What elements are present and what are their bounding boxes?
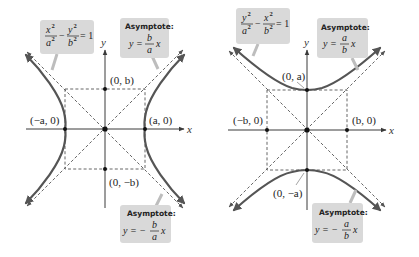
svg-text:b: b [264, 25, 269, 36]
svg-text:2: 2 [270, 10, 273, 17]
svg-text:b: b [147, 32, 152, 43]
label-top-point: (0, b) [110, 74, 134, 87]
point-top [103, 87, 107, 91]
center-point-right [304, 127, 309, 132]
hyperbola-figure: x y (−a, 0) (a, 0) (0, b) (0, −b) x 2 a … [0, 0, 419, 257]
center-point [102, 126, 107, 131]
svg-text:= 1: = 1 [80, 30, 93, 41]
svg-text:b: b [152, 219, 157, 230]
svg-text:Asymptote:: Asymptote: [321, 23, 370, 32]
svg-text:a: a [152, 231, 157, 242]
svg-text:a: a [147, 44, 152, 55]
x-axis-label-right: x [388, 124, 394, 136]
svg-text:b: b [342, 44, 347, 55]
svg-text:2: 2 [248, 23, 251, 30]
svg-text:y =: y = [322, 38, 337, 49]
svg-text:a: a [344, 218, 349, 229]
label-bottom-vertex: (0, −a) [273, 187, 303, 200]
svg-text:2: 2 [52, 22, 55, 29]
svg-text:y: y [67, 24, 73, 35]
vertex-bottom [305, 168, 309, 172]
right-panel: x y (0, a) (0, −a) (−b, 0) (b, 0) y 2 a … [228, 8, 394, 243]
svg-text:x: x [350, 38, 356, 49]
svg-text:x: x [352, 224, 358, 235]
point-bottom [103, 167, 107, 171]
label-top-vertex: (0, a) [282, 70, 306, 83]
svg-text:x: x [45, 24, 51, 35]
svg-text:y =: y = [128, 38, 143, 49]
x-axis-label: x [186, 123, 192, 135]
svg-text:y: y [241, 12, 247, 23]
svg-text:2: 2 [248, 10, 251, 17]
svg-text:−: − [255, 18, 261, 29]
svg-text:x: x [160, 225, 166, 236]
svg-text:b: b [68, 37, 73, 48]
svg-text:Asymptote:: Asymptote: [319, 208, 368, 217]
svg-text:x: x [263, 12, 269, 23]
y-axis-label: y [100, 36, 106, 48]
vertex-top [305, 88, 309, 92]
svg-text:a: a [342, 32, 347, 43]
svg-text:= 1: = 1 [276, 18, 289, 29]
vertex-right [143, 127, 147, 131]
svg-text:a: a [46, 37, 51, 48]
svg-text:2: 2 [74, 35, 77, 42]
asymptote-callout-negative-left: Asymptote: y = − b a x [120, 194, 176, 243]
equation-callout-right: y 2 a 2 − x 2 b 2 = 1 [236, 8, 290, 56]
svg-text:x: x [155, 38, 161, 49]
svg-text:a: a [242, 25, 247, 36]
left-panel: x y (−a, 0) (a, 0) (0, b) (0, −b) x 2 a … [26, 18, 192, 243]
svg-text:Asymptote:: Asymptote: [125, 22, 174, 31]
point-left [265, 128, 269, 132]
vertex-left [63, 127, 67, 131]
label-bottom-point: (0, −b) [109, 176, 139, 189]
svg-text:b: b [344, 230, 349, 241]
svg-text:y = −: y = − [314, 224, 338, 235]
y-axis-label-right: y [303, 36, 309, 48]
svg-text:2: 2 [74, 22, 77, 29]
asymptote-callout-positive-left: Asymptote: y = b a x [120, 18, 174, 69]
label-left-vertex: (−a, 0) [30, 114, 60, 127]
equation-callout-left: x 2 a 2 − y 2 b 2 = 1 [40, 20, 94, 70]
svg-text:2: 2 [270, 23, 273, 30]
label-right-point: (b, 0) [352, 114, 376, 127]
point-right [345, 128, 349, 132]
label-right-vertex: (a, 0) [149, 114, 173, 127]
svg-text:Asymptote:: Asymptote: [127, 209, 176, 218]
label-left-point: (−b, 0) [233, 114, 263, 127]
svg-text:2: 2 [52, 35, 55, 42]
asymptote-callout-negative-right: Asymptote: y = − a b x [312, 190, 368, 243]
svg-text:−: − [59, 30, 65, 41]
svg-text:y = −: y = − [122, 225, 146, 236]
